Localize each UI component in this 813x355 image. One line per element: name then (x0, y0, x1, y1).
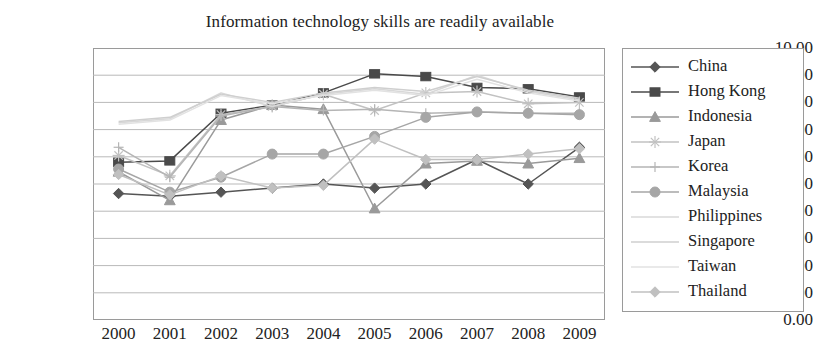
legend-item-korea[interactable]: Korea (623, 154, 803, 179)
legend-item-philippines[interactable]: Philippines (623, 204, 803, 229)
legend-swatch-none-icon (629, 207, 681, 227)
x-tick-2002: 2002 (193, 325, 249, 342)
legend-label: Singapore (688, 233, 755, 250)
x-tick-2006: 2006 (398, 325, 454, 342)
legend-swatch-triangle-icon (629, 107, 681, 127)
legend-label: Philippines (688, 208, 762, 225)
x-tick-2001: 2001 (142, 325, 198, 342)
legend-swatch-circle-icon (629, 182, 681, 202)
legend-swatch-diamond-icon (629, 57, 681, 77)
series-japan (113, 86, 586, 182)
legend-item-taiwan[interactable]: Taiwan (623, 254, 803, 279)
series-thailand (113, 134, 584, 200)
x-tick-2005: 2005 (347, 325, 403, 342)
legend-label: Indonesia (688, 108, 752, 125)
legend-label: China (688, 58, 727, 75)
legend-item-china[interactable]: China (623, 54, 803, 79)
legend-label: Japan (688, 133, 726, 150)
legend-label: Malaysia (688, 183, 748, 200)
x-tick-2000: 2000 (91, 325, 147, 342)
y-tick-0.00: 0.00 (725, 311, 813, 328)
chart-root: Information technology skills are readil… (0, 0, 813, 355)
x-tick-2007: 2007 (449, 325, 505, 342)
x-tick-2003: 2003 (244, 325, 300, 342)
legend-swatch-diamond-icon (629, 282, 681, 302)
legend-swatch-square-icon (629, 82, 681, 102)
legend-item-thailand[interactable]: Thailand (623, 279, 803, 304)
x-tick-2004: 2004 (295, 325, 351, 342)
legend-item-japan[interactable]: Japan (623, 129, 803, 154)
legend-item-malaysia[interactable]: Malaysia (623, 179, 803, 204)
legend-label: Taiwan (688, 258, 736, 275)
legend-swatch-none-icon (629, 257, 681, 277)
series-line (119, 106, 580, 177)
legend-label: Korea (688, 158, 728, 175)
series-china (113, 142, 584, 201)
legend-item-singapore[interactable]: Singapore (623, 229, 803, 254)
legend-label: Hong Kong (688, 83, 765, 100)
legend-item-indonesia[interactable]: Indonesia (623, 104, 803, 129)
series-line (119, 112, 580, 192)
chart-legend: ChinaHong KongIndonesiaJapanKoreaMalaysi… (622, 48, 804, 312)
legend-swatch-none-icon (629, 232, 681, 252)
legend-label: Thailand (688, 283, 747, 300)
series-line (119, 74, 580, 162)
chart-title: Information technology skills are readil… (160, 12, 600, 32)
plot-canvas (93, 48, 605, 320)
x-tick-2009: 2009 (551, 325, 607, 342)
legend-swatch-star-icon (629, 132, 681, 152)
x-tick-2008: 2008 (500, 325, 556, 342)
legend-swatch-cross-icon (629, 157, 681, 177)
legend-item-hong-kong[interactable]: Hong Kong (623, 79, 803, 104)
series-hong-kong (114, 70, 585, 167)
